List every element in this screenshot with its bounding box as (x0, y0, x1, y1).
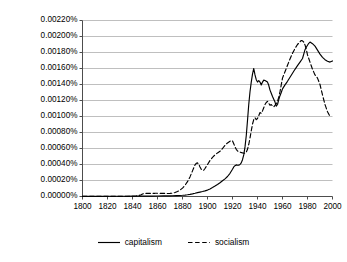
legend-label: capitalism (125, 238, 162, 247)
y-tick-label: 0.00060% (0, 144, 78, 152)
series-line-capitalism (83, 42, 333, 196)
y-tick-label: 0.00120% (0, 96, 78, 104)
y-tick-label: 0.00020% (0, 176, 78, 184)
y-tick-label: 0.00080% (0, 128, 78, 136)
series-line-socialism (83, 41, 331, 197)
y-tick-label: 0.00100% (0, 112, 78, 120)
chart-legend: capitalismsocialism (0, 238, 347, 247)
legend-line-swatch (98, 239, 120, 246)
y-tick-label: 0.00200% (0, 32, 78, 40)
legend-label: socialism (215, 238, 249, 247)
legend-line-swatch (188, 239, 210, 246)
y-tick-label: 0.00160% (0, 64, 78, 72)
y-tick-label: 0.00040% (0, 160, 78, 168)
y-tick-label: 0.00180% (0, 48, 78, 56)
x-tick-label: 2000 (316, 203, 347, 211)
legend-item-capitalism: capitalism (98, 238, 162, 247)
y-tick-label: 0.00220% (0, 16, 78, 24)
y-tick-label: 0.00140% (0, 80, 78, 88)
legend-item-socialism: socialism (188, 238, 249, 247)
ngram-frequency-chart: 0.00220%0.00200%0.00180%0.00160%0.00140%… (0, 0, 347, 262)
plot-area: 0.00220%0.00200%0.00180%0.00160%0.00140%… (0, 0, 347, 262)
y-tick-label: 0.00000% (0, 192, 78, 200)
